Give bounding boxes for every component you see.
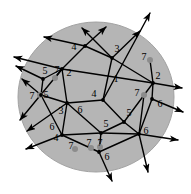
vertex-a <box>60 67 64 71</box>
vertex-j <box>99 131 103 135</box>
vertex-d <box>83 44 87 48</box>
marker-dot-6 <box>88 145 94 151</box>
vertex-g <box>65 101 69 105</box>
vertex-f <box>39 93 43 97</box>
marker-dot-1 <box>52 75 58 81</box>
vertex-b <box>110 56 114 60</box>
figure-canvas <box>0 0 191 194</box>
network-disk-figure: 4 3 7 5 7 2 1 2 7 5 4 7 6 3 6 5 6 5 6 4 … <box>0 0 191 194</box>
marker-dot-7 <box>97 144 103 150</box>
vertex-i <box>122 120 126 124</box>
vertex-l <box>150 97 154 101</box>
vertex-e <box>41 77 45 81</box>
marker-dot-5 <box>72 146 78 152</box>
vertex-k <box>137 132 141 136</box>
marker-dot-3 <box>147 57 153 63</box>
vertex-c <box>151 81 155 85</box>
marker-dot-4 <box>141 92 147 98</box>
vertex-h <box>101 98 105 102</box>
vertex-m <box>60 133 64 137</box>
vertex-n <box>97 150 101 154</box>
